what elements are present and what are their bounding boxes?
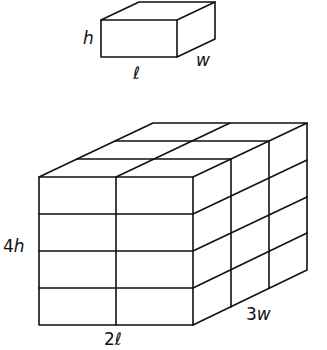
small-box-length-label: ℓ: [132, 63, 140, 83]
small-box: [101, 2, 215, 57]
large-box-width-label: 3w: [246, 304, 271, 324]
diagram-canvas: h ℓ w 4h 2ℓ 3w: [0, 0, 327, 350]
small-box-height-label: h: [83, 28, 94, 48]
large-box-height-label: 4h: [3, 236, 25, 256]
large-box: [39, 123, 307, 325]
large-box-length-label: 2ℓ: [104, 329, 122, 349]
small-box-width-label: w: [196, 50, 210, 70]
